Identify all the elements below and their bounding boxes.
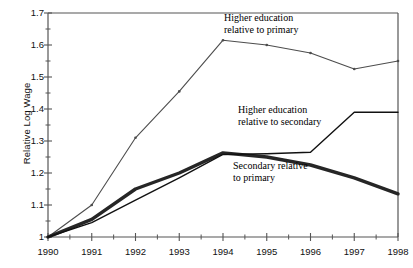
series-marker-higher_vs_primary [222,39,225,42]
series-marker-higher_vs_primary [265,44,268,47]
series-marker-higher_vs_primary [134,137,137,140]
series-marker-higher_vs_primary [397,60,400,63]
annotation-higher-vs-secondary: Higher education relative to secondary [238,104,321,127]
annotation-line-1: Higher education [224,12,298,24]
axis-ticks [44,13,398,241]
plot-area [0,0,413,268]
series-marker-higher_vs_primary [353,68,356,71]
chart-figure: Relative Log Wage 11.11.21.31.41.51.61.7… [0,0,413,268]
series-marker-higher_vs_primary [178,90,181,93]
series-line-secondary_vs_primary [48,153,398,237]
annotation-line-1: Higher education [238,104,321,116]
data-series-group [47,39,400,238]
annotation-line-2: relative to primary [224,24,298,36]
annotation-line-2: relative to secondary [238,116,321,128]
annotation-secondary-vs-primary: Secondary relative to primary [233,160,308,183]
annotation-higher-vs-primary: Higher education relative to primary [224,12,298,35]
axis-frame [48,13,398,237]
annotation-line-1: Secondary relative [233,160,308,172]
annotation-line-2: to primary [233,172,308,184]
series-marker-higher_vs_primary [309,52,312,55]
series-marker-higher_vs_primary [90,204,93,207]
series-line-higher_vs_primary [48,40,398,237]
